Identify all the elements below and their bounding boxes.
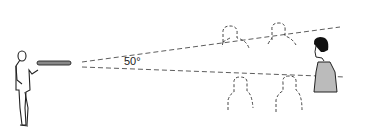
bystander-silhouettes <box>222 23 302 112</box>
sight-lines <box>82 27 345 77</box>
vision-field-diagram <box>0 0 365 136</box>
observer-figure <box>16 51 38 126</box>
target-person <box>314 37 337 92</box>
angle-label: 50° <box>124 55 141 67</box>
viewing-tube <box>37 61 71 65</box>
